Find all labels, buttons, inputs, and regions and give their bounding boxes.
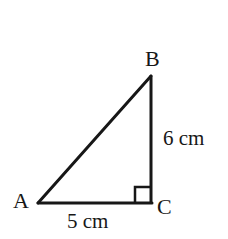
vertex-label-c: C (157, 196, 172, 218)
right-angle-marker (135, 187, 150, 202)
side-length-label-ac: 5 cm (67, 211, 108, 232)
side-length-label-bc: 6 cm (163, 128, 204, 149)
geometry-figure: A B C 6 cm 5 cm (0, 0, 228, 239)
segment-ab (38, 76, 151, 203)
vertex-label-a: A (13, 190, 29, 212)
vertex-label-b: B (145, 48, 160, 70)
triangle-drawing (0, 0, 228, 239)
